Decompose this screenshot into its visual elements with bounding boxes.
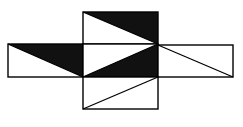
center-face: [83, 44, 158, 77]
right-face: [158, 45, 233, 77]
left-face: [8, 44, 83, 77]
bottom-face: [83, 77, 158, 109]
top-face: [83, 12, 158, 44]
cube-net-diagram: [0, 0, 243, 127]
